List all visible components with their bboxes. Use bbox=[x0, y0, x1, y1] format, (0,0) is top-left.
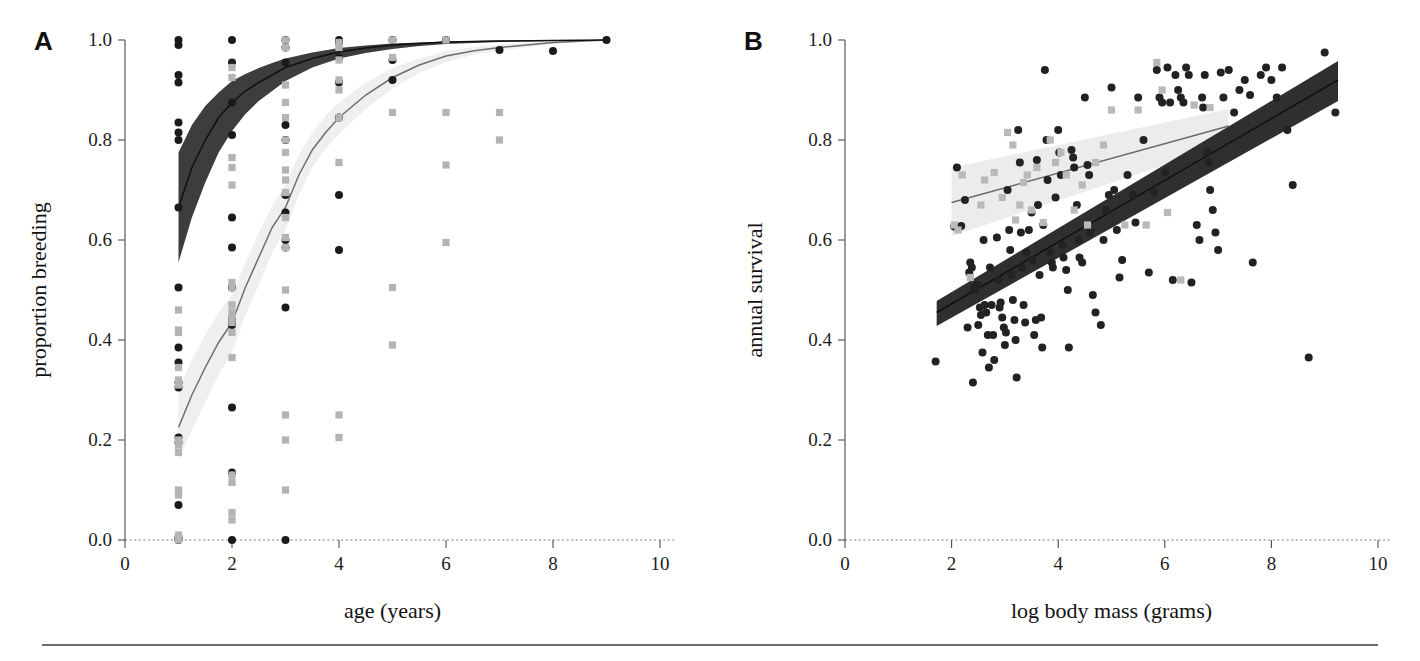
data-point-circle bbox=[1134, 94, 1142, 102]
data-point-circle bbox=[1002, 329, 1010, 337]
data-point-circle bbox=[1283, 126, 1291, 134]
data-point-circle bbox=[985, 364, 993, 372]
data-point-circle bbox=[1102, 206, 1110, 214]
data-point-square bbox=[1121, 221, 1128, 228]
data-point-circle bbox=[1201, 71, 1209, 79]
data-point-circle bbox=[1030, 331, 1038, 339]
data-point-circle bbox=[1171, 71, 1179, 79]
data-point-square bbox=[175, 536, 182, 543]
data-point-circle bbox=[1110, 186, 1118, 194]
x-axis-title: log body mass (grams) bbox=[1011, 598, 1212, 623]
data-point-circle bbox=[988, 301, 996, 309]
y-tick-label: 0.8 bbox=[808, 129, 832, 150]
data-point-circle bbox=[1219, 94, 1227, 102]
data-point-circle bbox=[1064, 286, 1072, 294]
x-axis-title: age (years) bbox=[344, 598, 441, 623]
data-point-square bbox=[175, 441, 182, 448]
data-point-circle bbox=[175, 284, 183, 292]
data-point-square bbox=[981, 176, 988, 183]
y-tick-label: 0.0 bbox=[88, 529, 112, 550]
data-point-circle bbox=[1009, 296, 1017, 304]
data-point-square bbox=[228, 329, 235, 336]
data-point-circle bbox=[1225, 66, 1233, 74]
data-point-circle bbox=[1029, 256, 1037, 264]
data-point-circle bbox=[1054, 126, 1062, 134]
data-point-square bbox=[335, 56, 342, 63]
data-point-circle bbox=[1278, 64, 1286, 72]
data-point-circle bbox=[1005, 226, 1013, 234]
data-point-circle bbox=[1161, 169, 1169, 177]
data-point-circle bbox=[1006, 246, 1014, 254]
data-point-square bbox=[389, 109, 396, 116]
data-point-circle bbox=[1113, 226, 1121, 234]
figure-container: A 0.00.20.40.60.81.00246810age (years)pr… bbox=[0, 0, 1420, 661]
data-point-circle bbox=[282, 121, 290, 129]
data-point-circle bbox=[1153, 66, 1161, 74]
data-point-circle bbox=[1169, 276, 1177, 284]
x-tick-label: 8 bbox=[1267, 553, 1277, 574]
data-point-circle bbox=[1118, 256, 1126, 264]
data-point-circle bbox=[1049, 264, 1057, 272]
data-point-square bbox=[282, 81, 289, 88]
data-point-circle bbox=[175, 344, 183, 352]
data-point-square bbox=[335, 434, 342, 441]
data-point-square bbox=[954, 226, 961, 233]
data-point-circle bbox=[986, 264, 994, 272]
y-axis-title: proportion breeding bbox=[26, 202, 51, 377]
data-point-circle bbox=[1014, 126, 1022, 134]
data-point-circle bbox=[1022, 249, 1030, 257]
data-point-circle bbox=[1016, 159, 1024, 167]
data-point-circle bbox=[995, 276, 1003, 284]
data-point-square bbox=[959, 171, 966, 178]
data-point-square bbox=[175, 491, 182, 498]
data-point-square bbox=[442, 36, 449, 43]
data-point-square bbox=[282, 176, 289, 183]
data-point-circle bbox=[1070, 164, 1078, 172]
data-point-circle bbox=[1108, 84, 1116, 92]
data-point-square bbox=[175, 329, 182, 336]
data-point-circle bbox=[1174, 86, 1182, 94]
data-point-square bbox=[282, 234, 289, 241]
data-point-circle bbox=[1321, 49, 1329, 57]
data-point-square bbox=[282, 99, 289, 106]
data-point-square bbox=[1100, 141, 1107, 148]
data-point-circle bbox=[175, 119, 183, 127]
data-point-circle bbox=[1089, 291, 1097, 299]
data-point-circle bbox=[1092, 309, 1100, 317]
data-point-square bbox=[228, 509, 235, 516]
data-point-circle bbox=[1010, 316, 1018, 324]
data-point-circle bbox=[968, 264, 976, 272]
data-point-square bbox=[282, 149, 289, 156]
data-point-square bbox=[1009, 141, 1016, 148]
data-point-circle bbox=[964, 324, 972, 332]
data-point-square bbox=[335, 86, 342, 93]
data-point-circle bbox=[389, 76, 397, 84]
data-point-circle bbox=[1187, 279, 1195, 287]
data-point-square bbox=[1079, 181, 1086, 188]
data-point-square bbox=[1052, 159, 1059, 166]
data-point-square bbox=[228, 181, 235, 188]
data-point-circle bbox=[998, 314, 1006, 322]
data-point-square bbox=[282, 189, 289, 196]
data-point-circle bbox=[1020, 301, 1028, 309]
data-point-circle bbox=[1209, 206, 1217, 214]
data-point-circle bbox=[175, 136, 183, 144]
data-point-square bbox=[335, 411, 342, 418]
y-tick-label: 0.0 bbox=[808, 529, 832, 550]
data-point-square bbox=[335, 44, 342, 51]
data-point-circle bbox=[335, 246, 343, 254]
y-tick-label: 0.6 bbox=[88, 229, 112, 250]
x-tick-label: 10 bbox=[651, 553, 670, 574]
data-point-circle bbox=[1001, 341, 1009, 349]
data-point-circle bbox=[1021, 319, 1029, 327]
data-point-square bbox=[1177, 276, 1184, 283]
y-tick-label: 0.4 bbox=[808, 329, 832, 350]
data-point-circle bbox=[1235, 86, 1243, 94]
data-point-circle bbox=[1211, 229, 1219, 237]
panel-a: A 0.00.20.40.60.81.00246810age (years)pr… bbox=[0, 0, 710, 661]
fit-group bbox=[179, 40, 607, 460]
y-tick-label: 1.0 bbox=[88, 29, 112, 50]
data-point-circle bbox=[1217, 69, 1225, 77]
data-point-circle bbox=[1069, 154, 1077, 162]
data-point-circle bbox=[1036, 271, 1044, 279]
